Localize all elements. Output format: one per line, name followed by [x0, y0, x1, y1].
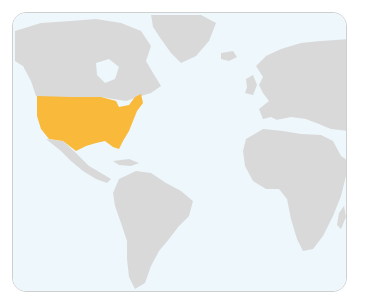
region-canada[interactable] [15, 19, 161, 101]
map-frame: World map highlighting the United States [12, 12, 347, 292]
world-map[interactable] [13, 13, 347, 292]
